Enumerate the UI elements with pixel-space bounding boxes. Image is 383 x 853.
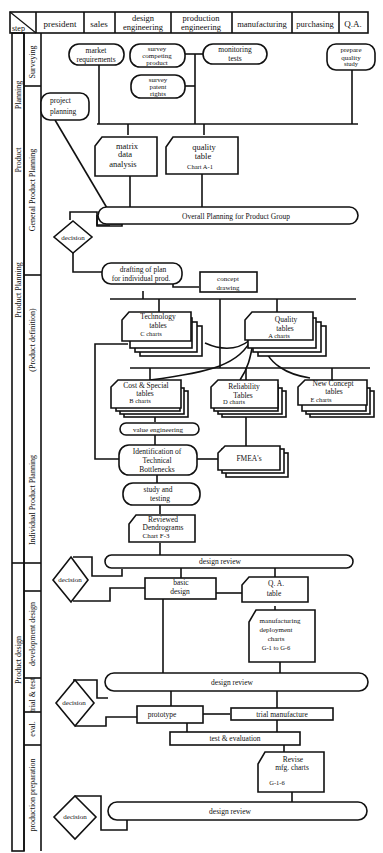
node-monitoring-tests: monitoring tests xyxy=(203,44,267,64)
node-overall-planning: Overall Planning for Product Group xyxy=(98,207,358,224)
svg-text:manufacturing: manufacturing xyxy=(260,617,301,625)
node-revise-mfg-charts: Revise mfg. charts G-1-6 xyxy=(258,752,324,792)
node-quality-table-chart-a1: quality table Chart A-1 xyxy=(166,137,238,174)
svg-text:tests: tests xyxy=(228,54,241,63)
node-identification-technical-bottlenecks: Identification of Technical Bottlenecks xyxy=(119,445,197,475)
svg-text:basic: basic xyxy=(173,578,189,587)
node-prepare-quality-study: prepare quality study xyxy=(327,44,375,70)
process-flow-diagram: step president sales design engineering … xyxy=(0,0,383,853)
column-sales: sales xyxy=(90,19,108,29)
svg-text:Quality: Quality xyxy=(275,315,298,324)
column-design-engineering-line2: engineering xyxy=(123,22,164,32)
phase-eval: eval. xyxy=(28,721,37,736)
node-cost-special-tables: Cost & Special tables B charts xyxy=(111,380,188,417)
svg-text:testing: testing xyxy=(150,494,170,503)
svg-text:table: table xyxy=(195,151,212,161)
svg-text:Overall Planning for Product G: Overall Planning for Product Group xyxy=(182,212,290,221)
svg-text:tables: tables xyxy=(149,321,167,330)
svg-text:table: table xyxy=(267,589,282,598)
svg-text:rights: rights xyxy=(150,90,166,98)
column-purchasing: purchasing xyxy=(296,19,334,29)
header-row: step president sales design engineering … xyxy=(10,12,368,33)
svg-text:design review: design review xyxy=(199,557,241,566)
svg-text:mfg. charts: mfg. charts xyxy=(275,763,309,772)
svg-text:Reliability: Reliability xyxy=(228,382,260,391)
column-president: president xyxy=(44,19,77,29)
node-concept-drawing: concept drawing xyxy=(200,272,257,292)
column-qa: Q.A. xyxy=(344,19,362,29)
svg-text:design: design xyxy=(170,587,190,596)
node-reviewed-dendrograms: Reviewed Dendrograms Chart F-3 xyxy=(129,515,195,542)
svg-text:A charts: A charts xyxy=(268,332,290,339)
node-design-review-3: design review xyxy=(108,802,367,820)
node-design-review-1: design review xyxy=(105,555,353,568)
node-market-requirements: market requirements xyxy=(69,44,124,65)
phase-production-preparation: production preparation xyxy=(28,758,37,831)
node-test-evaluation: test & evaluation xyxy=(170,732,300,745)
svg-text:test & evaluation: test & evaluation xyxy=(209,734,260,743)
column-production-engineering-line2: engineering xyxy=(181,22,222,32)
node-value-engineering: value engineering xyxy=(120,423,199,435)
svg-text:Chart F-3: Chart F-3 xyxy=(142,532,170,540)
step-label: step xyxy=(12,24,25,33)
node-reliability-tables: Reliability Tables D charts xyxy=(211,380,286,417)
svg-text:G-1-6: G-1-6 xyxy=(269,779,285,786)
node-decision-4: decision xyxy=(54,796,96,839)
svg-text:data: data xyxy=(118,149,132,159)
svg-text:decision: decision xyxy=(62,699,86,707)
phase-trial-test: trial & test xyxy=(28,677,37,712)
svg-text:study: study xyxy=(344,60,359,67)
svg-text:project: project xyxy=(50,96,72,105)
svg-text:FMEA's: FMEA's xyxy=(236,454,261,463)
node-manufacturing-deployment-charts: manufacturing deployment charts G-1 to G… xyxy=(249,610,315,662)
node-design-review-2: design review xyxy=(105,673,368,691)
svg-text:requirements: requirements xyxy=(76,55,115,64)
svg-text:study and: study and xyxy=(144,485,173,494)
svg-text:Dendrograms: Dendrograms xyxy=(143,523,184,532)
node-qa-table: Q. A. table xyxy=(242,577,308,602)
phase-product-upper: Product xyxy=(14,147,23,173)
phase-product-design: Product design xyxy=(14,636,23,684)
node-decision-1: decision xyxy=(54,221,92,253)
svg-text:for individual prod.: for individual prod. xyxy=(112,274,171,283)
svg-text:decision: decision xyxy=(61,234,85,242)
svg-text:product: product xyxy=(146,59,167,67)
svg-text:deployment: deployment xyxy=(259,626,292,634)
svg-text:Technology: Technology xyxy=(140,312,176,321)
column-manufacturing: manufacturing xyxy=(237,19,287,29)
svg-text:trial manufacture: trial manufacture xyxy=(256,710,308,719)
node-survey-competing-product: survey competing product xyxy=(130,44,185,67)
svg-text:analysis: analysis xyxy=(109,159,136,169)
node-project-planning: project planning xyxy=(41,93,89,120)
phase-development-design: development design xyxy=(28,602,37,666)
phase-general-product-planning: General Product Planning xyxy=(28,149,37,232)
svg-text:design review: design review xyxy=(209,807,251,816)
node-quality-tables: Quality tables A charts xyxy=(245,312,326,356)
node-decision-2: decision xyxy=(53,557,88,602)
phase-columns: Product Planning Product Planning Produc… xyxy=(12,33,41,851)
svg-text:Q. A.: Q. A. xyxy=(268,579,284,588)
node-fmeas: FMEA's xyxy=(218,446,288,477)
svg-text:market: market xyxy=(86,46,108,55)
node-new-concept-tables: New Concept tables E charts xyxy=(298,379,374,417)
svg-text:Technical: Technical xyxy=(142,456,171,465)
node-study-and-testing: study and testing xyxy=(123,483,200,505)
phase-product-planning: Product Planning xyxy=(14,262,23,317)
node-survey-patent-rights: survey patent rights xyxy=(131,75,185,98)
svg-text:drawing: drawing xyxy=(217,284,240,292)
svg-text:Bottlenecks: Bottlenecks xyxy=(139,465,174,474)
svg-text:B charts: B charts xyxy=(129,397,151,404)
node-trial-manufacture: trial manufacture xyxy=(231,708,333,720)
svg-text:drafting of plan: drafting of plan xyxy=(120,265,167,274)
svg-text:charts: charts xyxy=(268,635,285,643)
svg-text:decision: decision xyxy=(63,813,87,821)
phase-planning-upper: Planning xyxy=(14,81,23,109)
svg-text:planning: planning xyxy=(50,107,76,116)
svg-text:design review: design review xyxy=(211,678,253,687)
svg-text:G-1 to G-6: G-1 to G-6 xyxy=(262,644,291,651)
phase-individual-product-planning: Individual Product Planning xyxy=(28,455,37,545)
svg-text:C charts: C charts xyxy=(140,330,162,337)
node-technology-tables: Technology tables C charts xyxy=(122,312,202,356)
node-basic-design: basic design xyxy=(145,578,216,599)
node-prototype: prototype xyxy=(137,706,203,723)
